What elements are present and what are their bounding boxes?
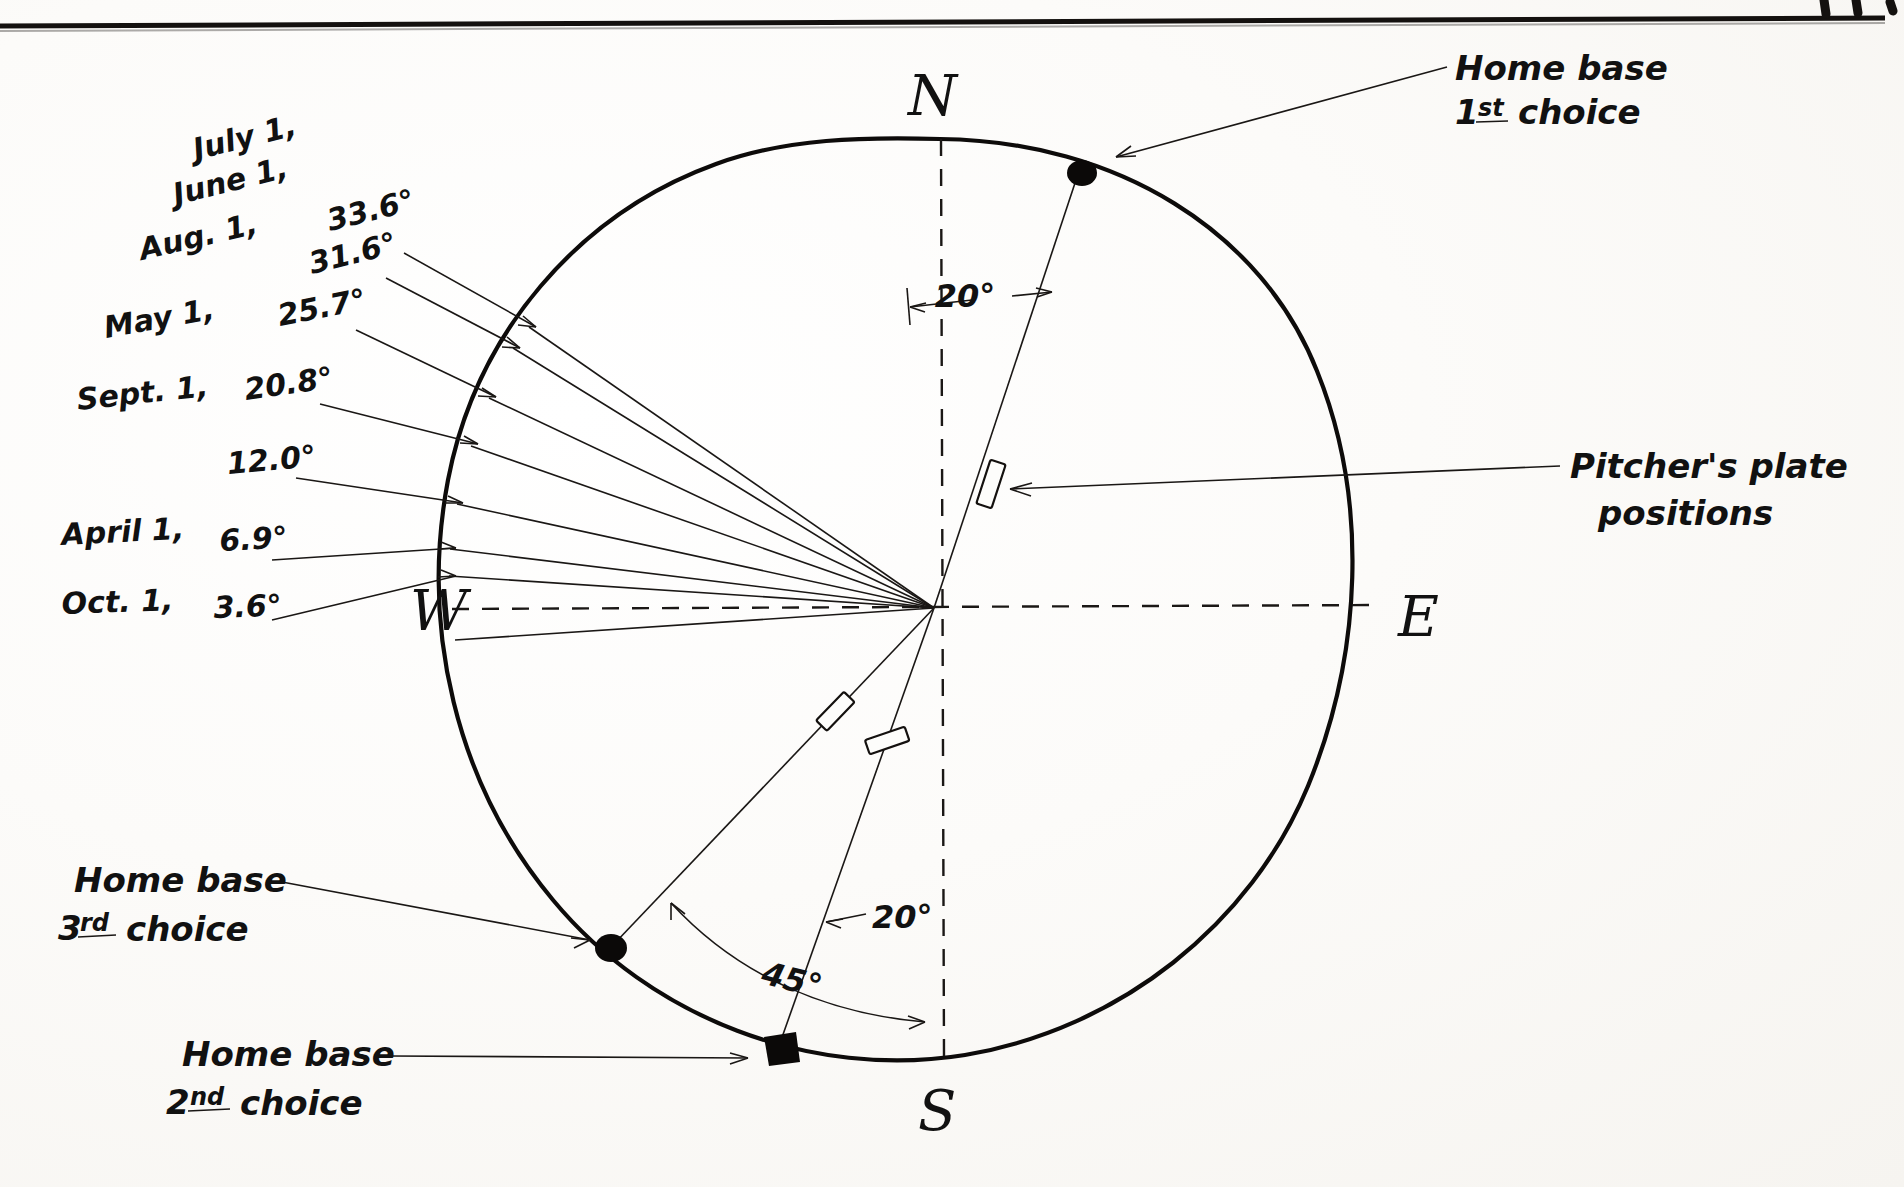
callout-ordinal-suffix: nd bbox=[190, 1083, 225, 1111]
callout-ordinal: 3 bbox=[58, 908, 82, 948]
azimuth-ray-extra bbox=[455, 608, 934, 640]
leader-july bbox=[404, 253, 536, 327]
callout-ordinal: 1 bbox=[1455, 92, 1479, 132]
diagram-sheet: N W E S bbox=[0, 0, 1904, 1187]
compass-label-west: W bbox=[410, 578, 472, 643]
month-value: 12.0° bbox=[226, 438, 318, 481]
month-label-list: July 1, 33.6° June 1, 31.6° Aug. 1, 25.7… bbox=[59, 107, 419, 625]
callout-home-base-first: Home base 1 st choice bbox=[1116, 48, 1668, 157]
callout-ordinal-suffix: rd bbox=[80, 909, 110, 937]
home-base-second-dot bbox=[764, 1032, 800, 1066]
month-label: Aug. 1, bbox=[134, 206, 261, 268]
azimuth-ray-may bbox=[471, 446, 934, 608]
home-base-first-group: 20° bbox=[907, 160, 1097, 608]
diagram-canvas: N W E S bbox=[0, 0, 1904, 1187]
month-row-october: Oct. 1, 3.6° bbox=[61, 582, 282, 625]
leader-april bbox=[272, 548, 456, 560]
compass-label-north: N bbox=[906, 63, 959, 128]
callout-line2: positions bbox=[1597, 493, 1773, 533]
pitchers-plate-third bbox=[816, 692, 855, 731]
callout-leader-second bbox=[390, 1056, 748, 1058]
month-value: 3.6° bbox=[213, 588, 282, 625]
home-base-first-dot bbox=[1067, 160, 1097, 186]
home-base-third-dot bbox=[595, 934, 627, 962]
month-value: 31.6° bbox=[305, 225, 400, 280]
month-value: 6.9° bbox=[219, 519, 289, 558]
callout-home-base-second: Home base 2 nd choice bbox=[166, 1034, 748, 1123]
callout-ordinal-suffix: st bbox=[1478, 94, 1505, 122]
callout-line1: Home base bbox=[74, 860, 287, 900]
month-label: Sept. 1, bbox=[75, 368, 210, 417]
page-top-rule bbox=[0, 18, 1885, 31]
month-label: April 1, bbox=[59, 511, 185, 552]
month-value: 25.7° bbox=[275, 282, 369, 333]
month-value: 33.6° bbox=[323, 182, 418, 237]
callout-pitchers-plate: Pitcher's plate positions bbox=[1010, 446, 1848, 533]
callout-home-base-third: Home base 3 rd choice bbox=[58, 860, 590, 949]
callout-line2-tail: choice bbox=[240, 1083, 363, 1123]
leader-june bbox=[386, 278, 520, 348]
compass-label-east: E bbox=[1397, 584, 1439, 649]
month-value: 20.8° bbox=[242, 360, 335, 407]
callout-line1: Home base bbox=[1455, 48, 1668, 88]
callout-leader-first bbox=[1116, 67, 1447, 157]
leader-may bbox=[320, 404, 478, 444]
azimuth-ray-group bbox=[449, 327, 934, 640]
month-row-april: April 1, 6.9° bbox=[59, 511, 289, 558]
callout-line1: Home base bbox=[182, 1034, 395, 1074]
angle-label-bottom-twenty: 20° bbox=[872, 898, 933, 936]
callout-ordinal: 2 bbox=[166, 1082, 190, 1122]
month-label: May 1, bbox=[101, 291, 217, 345]
leader-august bbox=[356, 330, 496, 397]
leader-september bbox=[296, 478, 463, 503]
pitchers-plate-second bbox=[865, 727, 910, 755]
callout-leader-pitchers bbox=[1010, 466, 1560, 489]
callout-line1: Pitcher's plate bbox=[1570, 446, 1848, 486]
radius-line-first bbox=[934, 174, 1078, 608]
callout-line2-tail: choice bbox=[1518, 92, 1641, 132]
angle-label-top-twenty: 20° bbox=[935, 277, 996, 315]
page-corner-mark bbox=[1824, 0, 1893, 14]
callout-line2-tail: choice bbox=[126, 909, 249, 949]
month-label: Oct. 1, bbox=[61, 582, 174, 621]
azimuth-ray-august bbox=[489, 398, 934, 608]
compass-label-south: S bbox=[918, 1078, 956, 1143]
azimuth-ray-june bbox=[513, 348, 934, 608]
radius-line-third bbox=[614, 608, 934, 944]
angle-label-forty-five: 45° bbox=[757, 954, 826, 1006]
